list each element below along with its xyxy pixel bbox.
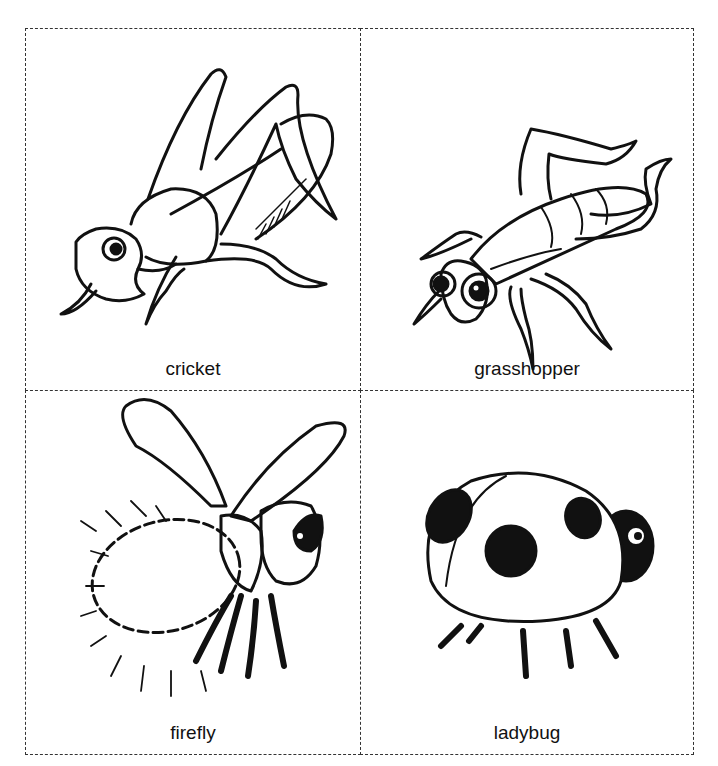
card-label: grasshopper (361, 358, 693, 380)
flashcard-firefly: firefly (25, 390, 361, 755)
card-label: ladybug (361, 722, 693, 744)
card-label: cricket (26, 358, 360, 380)
cricket-illustration (26, 29, 362, 392)
flashcard-grasshopper: grasshopper (360, 28, 694, 391)
ladybug-illustration (361, 391, 695, 756)
flashcard-sheet: cricket grasshopper (25, 28, 694, 755)
card-label: firefly (26, 722, 360, 744)
flashcard-cricket: cricket (25, 28, 361, 391)
grasshopper-illustration (361, 29, 695, 392)
flashcard-ladybug: ladybug (360, 390, 694, 755)
firefly-illustration (26, 391, 362, 756)
